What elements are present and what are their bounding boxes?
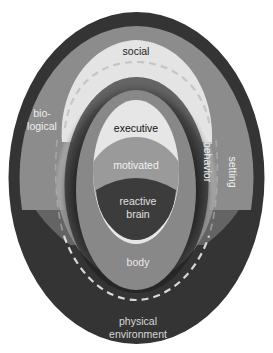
label-reactive: reactive xyxy=(120,195,157,207)
label-motivated: motivated xyxy=(113,159,159,171)
layered-ellipse-diagram: social bio- logical executive motivated … xyxy=(0,0,273,353)
label-brain: brain xyxy=(126,208,150,220)
label-physical: physical xyxy=(119,315,157,327)
label-environment: environment xyxy=(109,328,167,340)
label-behavior: behavior xyxy=(202,142,214,183)
label-body: body xyxy=(127,256,151,268)
label-biological-1: bio- xyxy=(33,107,51,119)
label-executive: executive xyxy=(114,122,159,134)
label-biological-2: logical xyxy=(27,120,57,132)
label-setting: setting xyxy=(227,157,239,188)
label-social: social xyxy=(123,45,150,57)
